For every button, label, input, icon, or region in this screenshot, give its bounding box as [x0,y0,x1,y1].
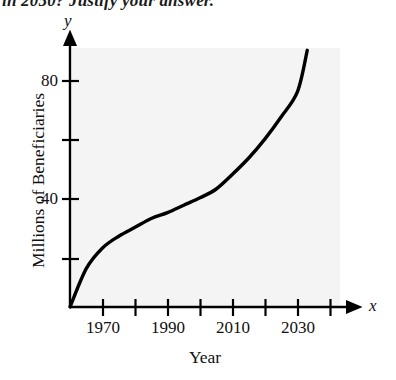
x-axis-variable-label: x [369,296,377,316]
beneficiaries-curve [70,50,307,307]
chart-canvas [0,0,396,380]
x-tick-label-1990: 1990 [141,318,195,338]
y-axis-variable-label: y [64,11,72,31]
y-axis-title: Millions of Beneficiaries [28,66,49,296]
chart-figure: in 2050? Justify your answer. [0,0,396,380]
x-tick-label-2030: 2030 [271,318,325,338]
x-axis-title: Year [150,347,260,368]
x-tick-label-1970: 1970 [76,318,130,338]
x-tick-label-2010: 2010 [206,318,260,338]
